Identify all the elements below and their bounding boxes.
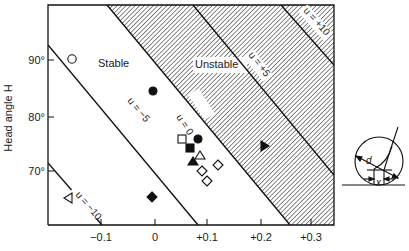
x-tick-label: −0.1 bbox=[90, 231, 112, 243]
y-tick-label: 90° bbox=[28, 54, 45, 66]
stability-chart: −0.1 0 +0.1 +0.2 +0.3 90° 80° 70° Head a… bbox=[0, 0, 409, 251]
y-tick-label: 80° bbox=[28, 111, 45, 123]
label-u-minus-10: u = −10 bbox=[73, 189, 104, 222]
point-open-diamond bbox=[202, 176, 212, 186]
label-u-0: u = 0 bbox=[174, 112, 196, 137]
y-axis-title: Head angle H bbox=[2, 84, 14, 151]
x-tick-label: +0.3 bbox=[300, 231, 322, 243]
point-filled-circle bbox=[149, 87, 157, 95]
stable-label: Stable bbox=[98, 57, 129, 69]
point-open-diamond bbox=[213, 160, 223, 170]
inset-d-label: d bbox=[366, 155, 372, 166]
point-open-left-triangle bbox=[64, 193, 72, 203]
point-filled-square bbox=[186, 144, 194, 152]
label-u-minus-5: u = −5 bbox=[125, 95, 152, 124]
point-filled-diamond bbox=[147, 192, 157, 202]
point-open-square bbox=[178, 135, 186, 143]
point-open-triangle bbox=[195, 151, 205, 159]
inset-d-arrow bbox=[356, 156, 398, 178]
unstable-label: Unstable bbox=[195, 58, 238, 70]
inset-x-label: x bbox=[375, 177, 382, 188]
inset-curve bbox=[374, 146, 392, 169]
point-open-diamond bbox=[197, 166, 207, 176]
x-tick-label: 0 bbox=[152, 231, 158, 243]
y-tick-label: 70° bbox=[28, 165, 45, 177]
point-open-circle bbox=[68, 55, 76, 63]
x-tick-label: +0.2 bbox=[250, 231, 272, 243]
inset-diagram bbox=[342, 127, 405, 185]
x-tick-label: +0.1 bbox=[196, 231, 218, 243]
point-filled-circle bbox=[194, 135, 202, 143]
